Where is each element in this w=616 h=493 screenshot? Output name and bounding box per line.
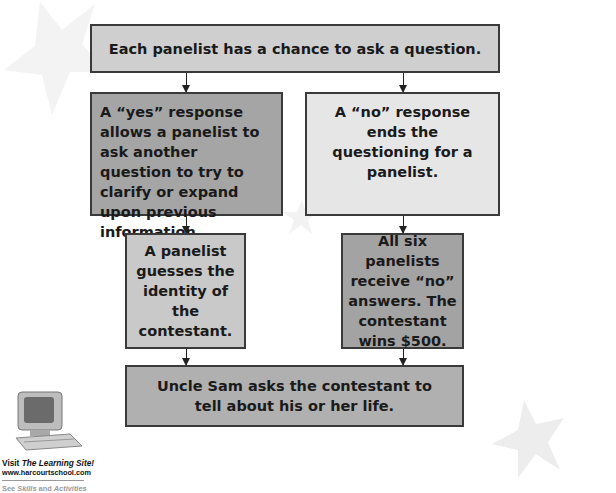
end-box: Uncle Sam asks the contestant to tell ab… <box>125 365 464 427</box>
yes-branch-box: A “yes” response allows a panelist to as… <box>90 92 283 216</box>
yes-branch-text: A “yes” response allows a panelist to as… <box>100 102 273 242</box>
all-no-outcome-box: All six panelists receive “no” answers. … <box>341 233 464 349</box>
site-url-link[interactable]: www.harcourtschool.com <box>2 468 84 481</box>
star-decoration-bottom-right <box>488 390 568 480</box>
arrow-start-to-no <box>403 73 404 92</box>
all-no-outcome-text: All six panelists receive “no” answers. … <box>347 231 458 351</box>
guess-outcome-text: A panelist guesses the identity of the c… <box>131 241 240 341</box>
start-box: Each panelist has a chance to ask a ques… <box>90 24 500 73</box>
no-branch-text: A “no” response ends the questioning for… <box>317 102 488 182</box>
start-text: Each panelist has a chance to ask a ques… <box>109 39 481 59</box>
visit-label[interactable]: Visit The Learning Site! <box>2 458 84 468</box>
arrow-guess-to-end <box>186 349 187 365</box>
learning-site-promo: Visit The Learning Site! www.harcourtsch… <box>2 390 84 493</box>
arrow-start-to-yes <box>186 73 187 92</box>
guess-outcome-box: A panelist guesses the identity of the c… <box>125 233 246 349</box>
arrow-all-no-to-end <box>403 349 404 365</box>
no-branch-box: A “no” response ends the questioning for… <box>305 92 500 216</box>
computer-icon <box>12 390 82 452</box>
end-text: Uncle Sam asks the contestant to tell ab… <box>143 376 446 416</box>
see-skills-activities: See Skills and Activities <box>2 484 84 493</box>
